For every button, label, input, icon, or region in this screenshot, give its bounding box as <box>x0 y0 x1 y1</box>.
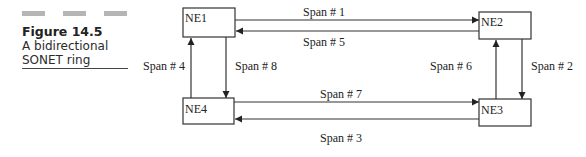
span-5-label: Span # 5 <box>303 35 345 49</box>
node-ne1: NE1 <box>183 8 235 37</box>
span-1-label: Span # 1 <box>303 5 345 19</box>
node-ne2: NE2 <box>479 12 531 39</box>
span-7-label: Span # 7 <box>320 87 362 101</box>
span-6-label: Span # 6 <box>430 59 472 73</box>
node-label: NE4 <box>185 102 207 116</box>
sonet-ring-diagram: NE1 NE2 NE3 NE4 Span # 1 Span # 5 Span #… <box>0 0 586 157</box>
node-label: NE2 <box>481 15 503 29</box>
span-2-label: Span # 2 <box>531 59 573 73</box>
node-label: NE3 <box>481 103 503 117</box>
span-4-label: Span # 4 <box>143 59 185 73</box>
node-label: NE1 <box>185 11 207 25</box>
node-ne3: NE3 <box>479 99 531 126</box>
span-3-label: Span # 3 <box>320 131 362 145</box>
span-8-label: Span # 8 <box>235 59 277 73</box>
node-ne4: NE4 <box>183 98 234 124</box>
